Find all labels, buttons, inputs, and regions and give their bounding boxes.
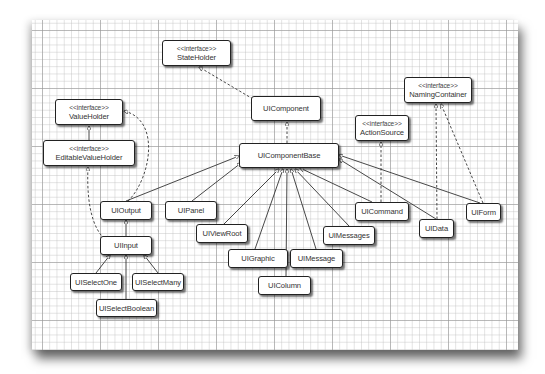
class-name: UIForm	[471, 208, 496, 217]
class-name: UIMessage	[298, 254, 336, 263]
class-name: UIComponentBase	[258, 151, 321, 160]
edge-uidata-namingcontainer	[436, 104, 437, 219]
node-uimessage: UIMessage	[290, 249, 343, 268]
edge-uioutput-base	[126, 156, 239, 201]
class-name: UICommand	[361, 207, 403, 216]
node-uimessages: UIMessages	[323, 226, 375, 245]
node-stateholder: <<interface>> StateHolder	[162, 40, 231, 66]
stereotype-label: <<interface>>	[362, 120, 401, 128]
node-uiform: UIForm	[466, 203, 501, 221]
class-name: UIViewRoot	[203, 229, 242, 238]
edge-uigraphic-base	[255, 169, 283, 249]
class-name: UISelectOne	[75, 278, 117, 287]
node-uiselectboolean: UISelectBoolean	[96, 299, 157, 317]
class-name: UIGraphic	[241, 254, 274, 263]
stereotype-label: <<interface>>	[177, 45, 216, 53]
node-namingcontainer: <<interface>> NamingContainer	[404, 77, 472, 103]
edge-uiform-namingcontainer	[441, 104, 483, 203]
node-uidata: UIData	[419, 219, 454, 238]
stereotype-label: <<interface>>	[418, 82, 457, 90]
node-valueholder: <<interface>> ValueHolder	[55, 99, 123, 125]
node-uiselectmany: UISelectMany	[132, 273, 184, 291]
class-name: EditableValueHolder	[56, 153, 123, 162]
edge-uimessages-base	[295, 169, 349, 226]
class-name: ValueHolder	[69, 112, 109, 121]
edge-uimessage-base	[291, 169, 316, 249]
edge-uipanel-base	[192, 163, 241, 201]
class-name: UIInput	[114, 241, 138, 250]
class-name: ActionSource	[360, 128, 404, 137]
node-actionsource: <<interface>> ActionSource	[355, 115, 409, 141]
node-uipanel: UIPanel	[165, 201, 217, 220]
class-name: StateHolder	[177, 53, 216, 62]
connector-lines	[0, 0, 545, 374]
class-name: UIOutput	[111, 206, 141, 215]
class-name: UIPanel	[178, 206, 204, 215]
class-name: UIMessages	[328, 231, 369, 240]
node-uiviewroot: UIViewRoot	[196, 224, 248, 243]
node-uicolumn: UIColumn	[258, 276, 311, 295]
node-uicomponent: UIComponent	[251, 96, 321, 121]
node-uiinput: UIInput	[100, 236, 152, 255]
class-name: UISelectMany	[135, 278, 181, 287]
edge-uiform-base	[339, 155, 480, 203]
node-uigraphic: UIGraphic	[228, 249, 288, 268]
class-name: NamingContainer	[409, 90, 467, 99]
class-name: UIColumn	[268, 281, 301, 290]
edge-uiselectone-uiinput	[96, 255, 110, 273]
stereotype-label: <<interface>>	[69, 104, 108, 112]
stereotype-label: <<interface>>	[69, 145, 108, 153]
class-name: UIComponent	[263, 104, 309, 113]
node-uioutput: UIOutput	[100, 201, 152, 220]
node-editablevalueholder: <<interface>> EditableValueHolder	[43, 140, 135, 166]
edge-uicomponent-stateholder	[199, 67, 253, 99]
node-uicommand: UICommand	[355, 202, 409, 221]
edge-uiviewroot-base	[224, 169, 279, 224]
class-name: UISelectBoolean	[99, 304, 154, 313]
node-uicomponentbase: UIComponentBase	[239, 143, 339, 168]
node-uiselectone: UISelectOne	[70, 273, 122, 291]
class-name: UIData	[425, 224, 448, 233]
edge-uiselectmany-uiinput	[144, 255, 158, 273]
